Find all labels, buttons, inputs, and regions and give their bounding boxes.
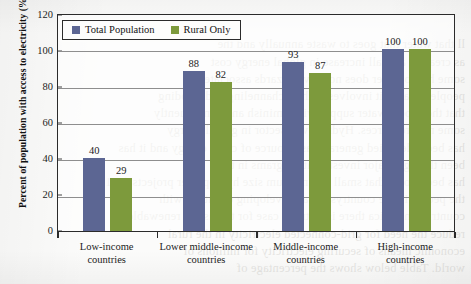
legend-item-total-population[interactable]: Total Population [72, 24, 155, 35]
bar-value-label-total-population-2: 88 [177, 58, 211, 69]
legend-label-total-population: Total Population [85, 24, 155, 35]
chart-legend: Total Population Rural Only [62, 20, 241, 40]
x-tick-mark-4 [454, 232, 456, 238]
legend-item-rural-only[interactable]: Rural Only [171, 24, 231, 35]
plot-area: 402988829387100100 [57, 14, 455, 232]
x-tick-mark-3 [356, 232, 358, 238]
y-tick-80: 80 [29, 81, 53, 92]
bar-value-label-total-population-3: 93 [276, 49, 310, 60]
bar-total-population-2[interactable] [183, 71, 205, 231]
x-category-high-income: High-income countries [346, 240, 464, 266]
bar-value-label-total-population-1: 40 [77, 145, 111, 156]
legend-swatch-icon-total-population [72, 26, 80, 34]
x-category-line-1: High-income [346, 240, 464, 253]
bar-total-population-1[interactable] [83, 158, 105, 231]
x-tick-mark-0 [57, 232, 59, 238]
x-tick-mark-2 [256, 232, 258, 238]
bar-layer: 402988829387100100 [58, 15, 454, 231]
y-tick-40: 40 [29, 153, 53, 164]
legend-swatch-icon-rural-only [171, 26, 179, 34]
y-tick-60: 60 [29, 117, 53, 128]
bar-rural-only-2[interactable] [210, 82, 232, 231]
y-tick-120: 120 [29, 9, 53, 20]
bar-value-label-rural-only-1: 29 [104, 165, 138, 176]
bar-total-population-3[interactable] [282, 62, 304, 231]
legend-label-rural-only: Rural Only [184, 24, 231, 35]
bar-value-label-rural-only-4: 100 [403, 36, 437, 47]
y-tick-20: 20 [29, 189, 53, 200]
bar-value-label-rural-only-3: 87 [303, 60, 337, 71]
bar-rural-only-3[interactable] [309, 73, 331, 231]
bar-total-population-4[interactable] [382, 49, 404, 231]
bar-value-label-rural-only-2: 82 [204, 69, 238, 80]
bar-rural-only-1[interactable] [110, 178, 132, 231]
x-tick-mark-1 [157, 232, 159, 238]
y-tick-0: 0 [29, 225, 53, 236]
y-tick-100: 100 [29, 45, 53, 56]
x-category-line-2: countries [346, 253, 464, 266]
bar-rural-only-4[interactable] [409, 49, 431, 231]
figure-page: ll that water that goes to waste annuall… [0, 0, 471, 284]
